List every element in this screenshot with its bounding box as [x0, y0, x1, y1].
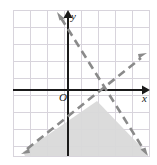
origin-label: O [59, 91, 67, 103]
y-axis-label: y [70, 10, 76, 22]
coordinate-plane-figure: O x y [0, 0, 157, 165]
x-axis-label: x [141, 92, 147, 104]
graph-svg: O x y [0, 0, 157, 165]
